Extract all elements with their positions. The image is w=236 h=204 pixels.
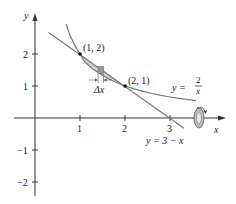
delta-x-label: Δx [93, 84, 105, 95]
x-tick-label-2: 2 [122, 123, 127, 134]
x-axis-arrow-icon [218, 116, 226, 121]
point-label-1-2: (1, 2) [83, 42, 105, 54]
line-equation-label: y = 3 − x [145, 135, 184, 146]
representative-rectangle [98, 67, 104, 74]
hyperbola-equation-lhs: y = [171, 82, 186, 93]
line-y-3-minus-x [49, 33, 185, 129]
point-1-2 [78, 52, 82, 56]
y-axis-arrow-icon [33, 13, 38, 21]
delta-x-arrowhead-right-icon [104, 79, 107, 82]
y-axis-label: y [23, 10, 29, 21]
y-tick-label-1: 1 [23, 81, 28, 92]
x-axis-label: x [213, 124, 219, 135]
point-label-2-1: (2, 1) [128, 75, 150, 87]
y-tick-label-2: 2 [23, 49, 28, 60]
point-2-1 [123, 84, 127, 88]
x-tick-label-1: 1 [77, 123, 82, 134]
x-tick-label-3: 3 [167, 123, 172, 134]
hyperbola-equation-denominator: x [195, 86, 200, 96]
delta-x-arrowhead-left-icon [95, 79, 98, 82]
diagram-figure: 1 2 3 2 1 −1 −2 y x Δx (1, 2) (2, 1) y =… [0, 0, 236, 204]
hyperbola-equation-numerator: 2 [196, 75, 201, 85]
y-tick-label-neg2: −2 [17, 177, 28, 188]
plot-canvas: 1 2 3 2 1 −1 −2 y x Δx (1, 2) (2, 1) y =… [0, 0, 236, 204]
y-tick-label-neg1: −1 [17, 145, 28, 156]
